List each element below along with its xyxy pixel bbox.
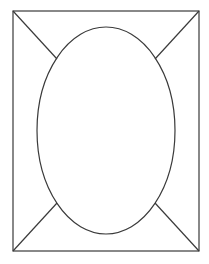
inner-ellipse (37, 27, 175, 234)
diagonal-top-left (13, 11, 57, 59)
diagram-canvas (0, 0, 209, 264)
diagonal-top-right (155, 11, 199, 59)
outer-rectangle (13, 11, 199, 251)
frame-ellipse-drawing (0, 0, 209, 264)
diagonal-bottom-left (13, 203, 57, 251)
diagonal-bottom-right (155, 203, 199, 251)
